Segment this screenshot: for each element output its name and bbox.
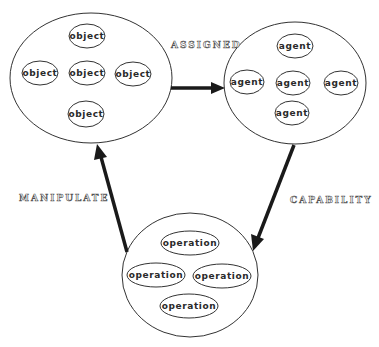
agent-node-top-label: agent — [279, 41, 311, 51]
objects-group: object object object object object — [10, 13, 172, 143]
agent-node-right-label: agent — [325, 78, 357, 88]
operation-node-left-label: operation — [129, 270, 184, 280]
agent-node-right: agent — [324, 71, 358, 95]
object-node-right: object — [115, 62, 151, 86]
agents-group: agent agent agent agent agent — [224, 22, 366, 144]
edge-manipulate: MANIPULATE — [19, 144, 127, 252]
operation-node-bottom-label: operation — [162, 301, 217, 311]
object-node-bottom-label: object — [68, 109, 103, 119]
edge-capability: CAPABILITY — [251, 145, 373, 251]
operation-node-bottom: operation — [160, 294, 218, 318]
manipulate-arrowhead-icon — [94, 144, 107, 160]
capability-arrowhead-icon — [251, 234, 264, 251]
manipulate-label: MANIPULATE — [19, 193, 109, 203]
object-node-center: object — [69, 61, 105, 85]
object-node-left-label: object — [22, 68, 57, 78]
object-node-top: object — [69, 24, 105, 48]
agent-node-bottom-label: agent — [276, 108, 308, 118]
operations-group: operation operation operation operation — [122, 213, 258, 337]
agent-node-left-label: agent — [231, 77, 263, 87]
object-node-left: object — [22, 61, 58, 85]
concept-diagram: object object object object object agent… — [0, 0, 379, 347]
operation-node-right: operation — [193, 264, 251, 288]
operation-node-top-label: operation — [163, 238, 218, 248]
agent-node-center: agent — [276, 71, 310, 95]
agent-node-center-label: agent — [277, 78, 309, 88]
operation-node-right-label: operation — [195, 271, 250, 281]
object-node-right-label: object — [115, 69, 150, 79]
assigned-label: ASSIGNED — [170, 40, 242, 50]
object-node-center-label: object — [69, 68, 104, 78]
capability-label: CAPABILITY — [290, 195, 373, 205]
object-node-bottom: object — [68, 101, 104, 127]
object-node-top-label: object — [69, 31, 104, 41]
agent-node-top: agent — [277, 34, 313, 58]
manipulate-arrow-line — [101, 157, 127, 252]
agent-node-bottom: agent — [275, 101, 309, 125]
capability-arrow-line — [258, 145, 294, 238]
operation-node-left: operation — [127, 263, 185, 287]
agent-node-left: agent — [230, 70, 264, 94]
assigned-arrowhead-icon — [211, 82, 225, 94]
operation-node-top: operation — [161, 231, 219, 255]
